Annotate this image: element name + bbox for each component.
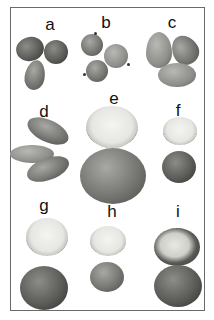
nut-c-1 bbox=[146, 32, 172, 68]
nut-b-3-stem bbox=[83, 73, 86, 76]
panel-label-i: i bbox=[176, 203, 180, 220]
nut-f-whole bbox=[162, 151, 196, 183]
nut-e-cracked bbox=[86, 106, 138, 148]
nut-b-1 bbox=[81, 34, 103, 56]
nut-h-whole bbox=[90, 262, 124, 292]
nut-c-3 bbox=[158, 63, 196, 87]
nut-g-whole bbox=[20, 266, 68, 310]
panel-label-c: c bbox=[168, 14, 177, 31]
nut-a-2 bbox=[44, 40, 68, 64]
panel-label-a: a bbox=[45, 16, 54, 33]
panel-label-e: e bbox=[109, 90, 118, 107]
panel-label-h: h bbox=[107, 203, 116, 220]
nut-h-cracked bbox=[90, 226, 126, 256]
nut-e-whole bbox=[80, 148, 146, 204]
nut-i-cracked bbox=[154, 228, 200, 266]
nut-b-2 bbox=[104, 44, 128, 68]
nut-g-cracked bbox=[26, 218, 68, 256]
nut-b-3 bbox=[86, 60, 108, 82]
nut-i-whole bbox=[154, 265, 202, 307]
panel-label-b: b bbox=[101, 14, 110, 31]
panel-label-g: g bbox=[39, 197, 48, 214]
nut-b-1-stem bbox=[94, 32, 97, 35]
nut-b-2-stem bbox=[127, 63, 130, 66]
nut-f-cracked bbox=[163, 117, 197, 145]
